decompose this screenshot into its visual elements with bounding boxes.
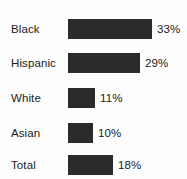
bar-track-hispanic: 29% (68, 53, 168, 73)
chart-row: Total 18% (0, 149, 187, 179)
bar-track-asian: 10% (68, 123, 121, 143)
bar-total (68, 155, 113, 175)
category-label-white: White (11, 92, 41, 104)
bar-black (68, 19, 152, 39)
value-label-black: 33% (157, 23, 180, 35)
bar-chart: Black 33% Hispanic 29% White 11% Asian 1… (0, 0, 187, 179)
category-label-asian: Asian (11, 127, 40, 139)
value-label-hispanic: 29% (145, 57, 168, 69)
category-label-hispanic: Hispanic (11, 57, 56, 69)
bar-track-black: 33% (68, 19, 180, 39)
chart-row: Asian 10% (0, 117, 187, 149)
value-label-white: 11% (100, 92, 122, 104)
value-label-asian: 10% (98, 127, 121, 139)
bar-track-total: 18% (68, 155, 141, 175)
chart-row: Black 33% (0, 13, 187, 45)
category-label-black: Black (11, 23, 40, 35)
bar-hispanic (68, 53, 140, 73)
bar-asian (68, 123, 93, 143)
category-label-total: Total (11, 159, 36, 171)
chart-row: White 11% (0, 82, 187, 114)
bar-white (68, 88, 95, 108)
value-label-total: 18% (118, 159, 141, 171)
chart-row: Hispanic 29% (0, 47, 187, 79)
bar-track-white: 11% (68, 88, 122, 108)
